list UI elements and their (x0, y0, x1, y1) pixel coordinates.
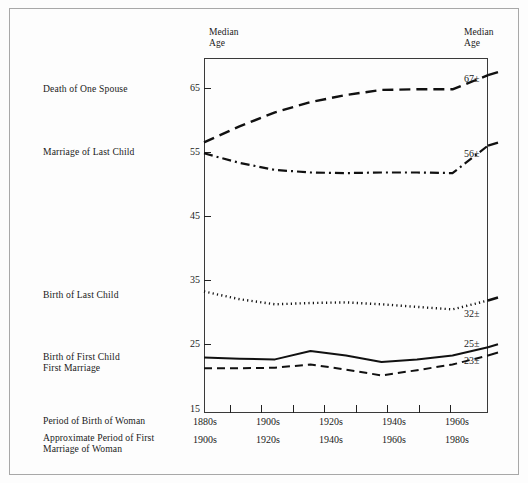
series-label-birth-first-child-first-marriage: Birth of First Child First Marriage (43, 351, 120, 373)
end-value-death-of-one-spouse: 67± (464, 74, 480, 84)
y-tick-35 (204, 280, 211, 281)
figure-page: Median Age Median Age 65 55 45 35 25 15 … (0, 0, 528, 483)
median-age-heading-left: Median Age (209, 27, 239, 49)
x-tick-4 (324, 405, 325, 413)
caption-approximate-period-of-first-marriage: Approximate Period of First Marriage of … (43, 432, 154, 454)
y-label-45: 45 (178, 211, 200, 221)
end-value-marriage-of-last-child: 56± (464, 149, 480, 159)
series-label-death-of-one-spouse: Death of One Spouse (43, 83, 128, 94)
x-label-birth-1940s: 1940s (372, 416, 416, 427)
x-tick-6 (387, 405, 388, 413)
x-label-birth-1880s: 1880s (183, 416, 227, 427)
x-tick-1 (230, 405, 231, 413)
y-tick-65 (204, 88, 211, 89)
series-label-marriage-of-last-child: Marriage of Last Child (43, 146, 135, 157)
x-tick-5 (356, 405, 357, 413)
x-label-marriage-1920s: 1920s (246, 434, 290, 445)
end-value-birth-of-first-child: 25± (464, 339, 480, 349)
x-label-birth-1960s: 1960s (435, 416, 479, 427)
y-tick-45 (204, 216, 211, 217)
end-value-birth-of-last-child: 32± (464, 309, 480, 319)
median-age-heading-right: Median Age (464, 27, 494, 49)
y-label-35: 35 (178, 275, 200, 285)
x-tick-7 (419, 405, 420, 413)
y-label-65: 65 (178, 83, 200, 93)
series-label-birth-of-last-child: Birth of Last Child (43, 289, 119, 300)
y-label-15: 15 (178, 404, 200, 414)
end-value-first-marriage: 23± (464, 356, 480, 366)
x-tick-3 (293, 405, 294, 413)
x-tick-8 (450, 405, 451, 413)
y-tick-25 (204, 344, 211, 345)
y-tick-55 (204, 152, 211, 153)
x-label-birth-1920s: 1920s (309, 416, 353, 427)
x-label-birth-1900s: 1900s (246, 416, 290, 427)
x-label-marriage-1900s: 1900s (183, 434, 227, 445)
caption-period-of-birth: Period of Birth of Woman (43, 415, 145, 426)
y-label-55: 55 (178, 147, 200, 157)
x-label-marriage-1980s: 1980s (435, 434, 479, 445)
y-label-25: 25 (178, 339, 200, 349)
x-label-marriage-1960s: 1960s (372, 434, 416, 445)
plot-area (204, 58, 488, 413)
x-tick-2 (261, 405, 262, 413)
x-label-marriage-1940s: 1940s (309, 434, 353, 445)
